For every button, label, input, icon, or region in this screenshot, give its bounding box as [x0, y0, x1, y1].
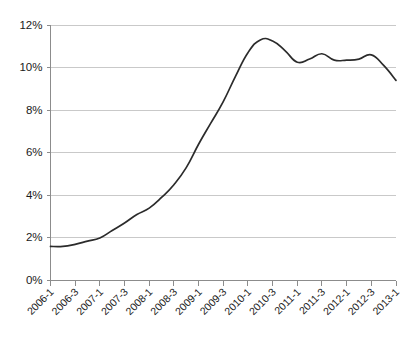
chart-canvas: 0%2%4%6%8%10%12% 2006-12006-32007-12007-… — [0, 0, 414, 337]
y-axis-tick-label: 6% — [26, 146, 43, 158]
y-axis-tick-label: 2% — [26, 231, 43, 243]
y-axis-tick-label: 0% — [26, 274, 43, 286]
y-axis-tick-label: 10% — [19, 61, 42, 73]
y-axis-tick-label: 12% — [19, 19, 42, 31]
y-axis-tick-label: 8% — [26, 104, 43, 116]
chart-background — [0, 0, 414, 337]
y-axis-tick-label: 4% — [26, 189, 43, 201]
line-chart: 0%2%4%6%8%10%12% 2006-12006-32007-12007-… — [0, 0, 414, 337]
